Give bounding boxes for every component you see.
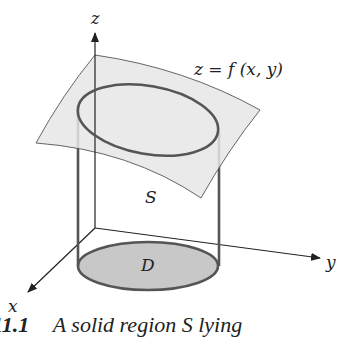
surface-equation-label: z = f (x, y) — [193, 59, 283, 79]
caption-number: 11.1 — [0, 312, 29, 337]
y-axis-label: y — [325, 252, 336, 272]
region-label: D — [140, 255, 155, 275]
solid-label: S — [145, 187, 157, 207]
z-axis-label: z — [90, 9, 100, 28]
figure-caption: 11.1 A solid region S lying — [0, 312, 348, 341]
caption-text: A solid region S lying — [53, 312, 242, 337]
